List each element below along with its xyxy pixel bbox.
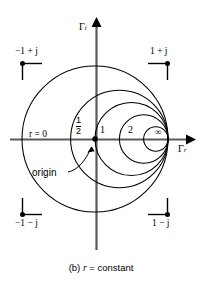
- corner-marker-top-right: [148, 61, 170, 80]
- caption-prefix: (b): [69, 262, 81, 273]
- caption-variable: r: [83, 263, 87, 273]
- label-r-two: 2: [128, 125, 133, 135]
- corner-label-top-right: 1 + j: [150, 47, 168, 57]
- label-r-half-denominator: 2: [76, 127, 81, 136]
- corner-dot-br: [165, 212, 170, 217]
- corner-marker-bottom-right: [148, 198, 170, 217]
- corner-marker-bottom-left: [20, 198, 42, 217]
- corner-dot-tl: [20, 61, 25, 66]
- horizontal-axis-label: Γr: [178, 144, 187, 154]
- label-r-zero: r = 0: [29, 130, 47, 140]
- vertical-axis-label-sub: i: [85, 24, 87, 32]
- corner-dot-bl: [20, 212, 25, 217]
- corner-label-bottom-left: −1 − j: [15, 219, 38, 229]
- label-r-infinity: ∞: [155, 128, 161, 137]
- caption-rest: = constant: [89, 262, 133, 273]
- horizontal-axis-arrowhead: [186, 135, 196, 145]
- origin-dot: [92, 136, 97, 141]
- label-r-one: 1: [100, 125, 105, 135]
- origin-label: origin: [32, 168, 56, 178]
- corner-label-top-left: −1 + j: [15, 47, 38, 57]
- corner-dot-tr: [165, 61, 170, 66]
- smith-chart-canvas: [0, 0, 202, 285]
- horizontal-axis-label-sub: r: [184, 146, 187, 154]
- figure-caption: (b) r = constant: [0, 262, 202, 273]
- smith-chart-figure: Γi Γr −1 + j 1 + j −1 − j 1 − j r = 0 1 …: [0, 0, 202, 285]
- vertical-axis-label: Γi: [79, 22, 87, 32]
- corner-label-bottom-right: 1 − j: [152, 219, 170, 229]
- label-r-half: 1 2: [76, 116, 81, 137]
- label-r-half-numerator: 1: [76, 116, 81, 125]
- vertical-axis-arrowhead: [92, 17, 102, 27]
- corner-marker-top-left: [20, 61, 42, 80]
